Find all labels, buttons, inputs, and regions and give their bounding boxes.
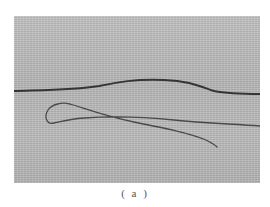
- looped-fiber: [46, 103, 260, 147]
- long-fiber: [14, 80, 260, 94]
- fiber-illustration: [14, 16, 260, 183]
- figure-caption: ( a ): [0, 187, 270, 199]
- figure-photo: [14, 16, 260, 183]
